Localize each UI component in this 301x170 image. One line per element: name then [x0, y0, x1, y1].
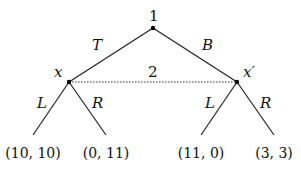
action-R-left-label: R: [91, 94, 103, 112]
payoff-1: (10, 10): [5, 145, 60, 161]
action-L-right-label: L: [204, 94, 215, 112]
node-x-prime-label: x′: [243, 63, 255, 81]
player-1-label: 1: [149, 7, 159, 25]
root-node: [151, 26, 155, 30]
node-x-prime: [235, 80, 239, 84]
game-tree: 1 T B x x′ 2 L R L R (10, 10) (0, 11) (1…: [0, 0, 301, 170]
payoff-2: (0, 11): [83, 145, 130, 161]
edge-T: [69, 28, 153, 82]
action-T-label: T: [92, 36, 103, 54]
player-2-label: 2: [148, 63, 158, 81]
node-x: [67, 80, 71, 84]
payoff-3: (11, 0): [178, 145, 225, 161]
action-B-label: B: [201, 36, 213, 54]
payoff-4: (3, 3): [255, 145, 293, 161]
edge-B: [153, 28, 237, 82]
action-R-right-label: R: [259, 94, 271, 112]
node-x-label: x: [54, 63, 63, 81]
action-L-left-label: L: [36, 94, 47, 112]
